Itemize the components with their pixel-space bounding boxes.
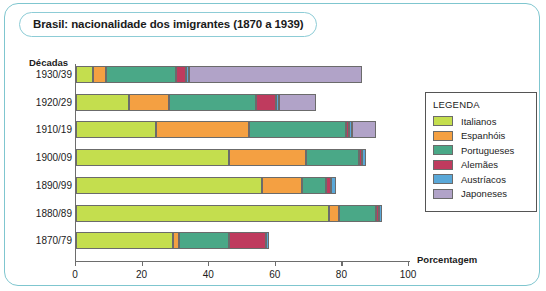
bar-segment-austríacos[interactable] — [362, 149, 365, 166]
chart-title: Brasil: nacionalidade dos imigrantes (18… — [19, 12, 317, 37]
bar-segment-espanhóis[interactable] — [329, 205, 339, 222]
bar-track — [76, 149, 409, 166]
legend-item[interactable]: Austríacos — [433, 172, 536, 186]
x-axis-tick — [408, 261, 409, 266]
legend-label: Espanhóis — [461, 130, 505, 141]
y-axis-tick-labels: 1930/391920/291910/191900/091890/991880/… — [10, 66, 72, 260]
bar-segment-espanhóis[interactable] — [129, 94, 169, 111]
legend-items: ItalianosEspanhóisPortuguesesAlemãesAust… — [433, 114, 536, 201]
bar-segment-alemães[interactable] — [176, 66, 186, 83]
legend-swatch-austríacos — [433, 174, 453, 184]
legend-swatch-espanhóis — [433, 131, 453, 141]
bar-segment-espanhóis[interactable] — [262, 177, 302, 194]
bar-track — [76, 205, 409, 222]
bar-segment-portugueses[interactable] — [106, 66, 176, 83]
bar-segment-portugueses[interactable] — [339, 205, 376, 222]
bar-segment-italianos[interactable] — [76, 177, 262, 194]
x-axis-tick-label: 0 — [72, 269, 78, 280]
bar-track — [76, 232, 409, 249]
bar-segment-alemães[interactable] — [229, 232, 266, 249]
bar-segment-austríacos[interactable] — [379, 205, 382, 222]
bar-segment-austríacos[interactable] — [266, 232, 269, 249]
bar-segment-espanhóis[interactable] — [156, 121, 249, 138]
x-axis-tick-label: 40 — [203, 269, 214, 280]
bar-track — [76, 121, 409, 138]
x-axis-tick-label: 20 — [136, 269, 147, 280]
legend-item[interactable]: Alemães — [433, 158, 536, 172]
bar-segment-portugueses[interactable] — [179, 232, 229, 249]
legend-label: Austríacos — [461, 174, 506, 185]
bar-segment-espanhóis[interactable] — [229, 149, 306, 166]
y-axis-tick-label: 1930/39 — [14, 66, 72, 83]
bar-track — [76, 94, 409, 111]
bar-segment-italianos[interactable] — [76, 149, 229, 166]
x-axis-tick — [208, 261, 209, 266]
bar-segment-portugueses[interactable] — [306, 149, 359, 166]
x-axis-tick-label: 60 — [269, 269, 280, 280]
y-axis-tick-label: 1900/09 — [14, 149, 72, 166]
bar-segment-japoneses[interactable] — [352, 121, 375, 138]
x-axis-tick — [341, 261, 342, 266]
x-axis-tick — [75, 261, 76, 266]
bar-segment-austríacos[interactable] — [331, 177, 336, 194]
bar-row[interactable] — [76, 232, 409, 249]
legend-swatch-alemães — [433, 160, 453, 170]
bar-segment-italianos[interactable] — [76, 205, 329, 222]
bar-segment-italianos[interactable] — [76, 121, 156, 138]
bar-segment-italianos[interactable] — [76, 66, 93, 83]
legend-item[interactable]: Japoneses — [433, 187, 536, 201]
bar-segment-japoneses[interactable] — [189, 66, 362, 83]
legend-item[interactable]: Portugueses — [433, 143, 536, 157]
legend-swatch-japoneses — [433, 189, 453, 199]
bar-segment-italianos[interactable] — [76, 232, 173, 249]
bar-segment-italianos[interactable] — [76, 94, 129, 111]
y-axis-tick-label: 1870/79 — [14, 232, 72, 249]
legend-title: LEGENDA — [433, 99, 536, 110]
bar-row[interactable] — [76, 66, 409, 83]
x-axis-tick-label: 80 — [336, 269, 347, 280]
legend-swatch-italianos — [433, 116, 453, 126]
bar-row[interactable] — [76, 94, 409, 111]
bar-segment-portugueses[interactable] — [249, 121, 346, 138]
legend-label: Japoneses — [461, 188, 507, 199]
bar-row[interactable] — [76, 205, 409, 222]
x-axis-title: Porcentagem — [417, 254, 477, 265]
legend-label: Alemães — [461, 159, 498, 170]
bar-segment-portugueses[interactable] — [169, 94, 256, 111]
plot-area — [76, 66, 409, 260]
x-axis-tick — [142, 261, 143, 266]
bar-track — [76, 177, 409, 194]
bar-segment-espanhóis[interactable] — [173, 232, 180, 249]
legend-label: Portugueses — [461, 145, 514, 156]
x-axis-line — [75, 261, 410, 262]
y-axis-tick-label: 1920/29 — [14, 94, 72, 111]
legend-item[interactable]: Italianos — [433, 114, 536, 128]
bar-track — [76, 66, 409, 83]
bar-segment-alemães[interactable] — [256, 94, 276, 111]
legend-swatch-portugueses — [433, 145, 453, 155]
bar-row[interactable] — [76, 121, 409, 138]
legend-label: Italianos — [461, 116, 496, 127]
y-axis-tick-label: 1890/99 — [14, 177, 72, 194]
legend-item[interactable]: Espanhóis — [433, 129, 536, 143]
legend: LEGENDA ItalianosEspanhóisPortuguesesAle… — [425, 92, 537, 212]
y-axis-tick-label: 1880/89 — [14, 205, 72, 222]
x-axis-tick-label: 100 — [400, 269, 417, 280]
figure-frame: Brasil: nacionalidade dos imigrantes (18… — [4, 3, 540, 286]
y-axis-tick-label: 1910/19 — [14, 121, 72, 138]
bar-segment-japoneses[interactable] — [279, 94, 316, 111]
bar-segment-espanhóis[interactable] — [93, 66, 106, 83]
bar-segment-portugueses[interactable] — [302, 177, 325, 194]
bar-row[interactable] — [76, 177, 409, 194]
bar-row[interactable] — [76, 149, 409, 166]
x-axis-tick — [275, 261, 276, 266]
